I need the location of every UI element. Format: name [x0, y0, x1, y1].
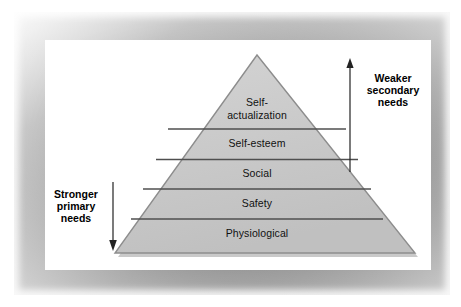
annotation-stronger-primary-needs: Stronger primary needs	[42, 188, 110, 225]
annotation-right-line-1: Weaker	[356, 72, 430, 84]
pyramid-graphic	[0, 0, 461, 307]
annotation-left-line-3: needs	[42, 212, 110, 224]
arrow-up-icon	[346, 58, 353, 172]
annotation-right-line-3: needs	[356, 96, 430, 108]
tier-label-self-actualization: Self- actualization	[207, 96, 307, 121]
annotation-left-line-1: Stronger	[42, 188, 110, 200]
tier-label-social: Social	[202, 167, 312, 180]
annotation-left-line-2: primary	[42, 200, 110, 212]
tier-label-line-1: Self-	[207, 96, 307, 109]
tier-label-safety: Safety	[202, 197, 312, 210]
annotation-weaker-secondary-needs: Weaker secondary needs	[356, 72, 430, 109]
tier-label-physiological: Physiological	[197, 227, 317, 240]
annotation-right-line-2: secondary	[356, 84, 430, 96]
figure-canvas: Self- actualization Self-esteem Social S…	[0, 0, 461, 307]
tier-label-line-2: actualization	[207, 109, 307, 122]
tier-label-self-esteem: Self-esteem	[202, 137, 312, 150]
arrow-down-icon	[109, 182, 117, 251]
